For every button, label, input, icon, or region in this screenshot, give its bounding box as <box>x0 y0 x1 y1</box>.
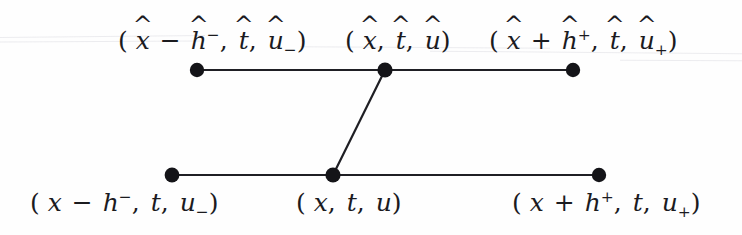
close-paren: ) <box>691 188 701 217</box>
x-symbol: x <box>314 188 328 217</box>
close-paren: ) <box>297 26 307 55</box>
hat-accent: ^ <box>360 14 380 38</box>
comma: , <box>220 26 231 55</box>
upper-center-node-label: ( ^x, ^t, ^u) <box>345 28 451 53</box>
h-symbol: h <box>585 188 601 217</box>
x-symbol: x <box>530 188 544 217</box>
comma: , <box>328 188 339 217</box>
u-symbol: u <box>376 188 392 217</box>
lower-center-node-label: ( x, t, u) <box>296 190 402 215</box>
h-hat-symbol: ^h <box>191 28 207 53</box>
close-paren: ) <box>668 26 678 55</box>
x-hat-symbol: ^x <box>363 28 377 53</box>
upper-left-node-label: ( ^x − ^h−, ^t, ^u−) <box>118 28 307 53</box>
x-hat-symbol: ^x <box>507 28 521 53</box>
open-paren: ( <box>345 26 355 55</box>
stencil-node-upper-left <box>190 63 204 77</box>
hat-accent: ^ <box>637 14 657 38</box>
minus-superscript: − <box>119 188 132 206</box>
plus-operator: + <box>529 26 554 55</box>
hat-accent: ^ <box>266 14 286 38</box>
minus-subscript: − <box>196 203 209 221</box>
stencil-node-lower-center <box>325 167 340 182</box>
t-hat-symbol: ^t <box>610 28 620 53</box>
h-hat-symbol: ^h <box>562 28 578 53</box>
u-hat-symbol: ^u <box>268 28 284 53</box>
center-connector-segment <box>333 70 385 175</box>
t-hat-symbol: ^t <box>239 28 249 53</box>
open-paren: ( <box>296 188 306 217</box>
open-paren: ( <box>118 26 128 55</box>
minus-subscript: − <box>284 41 297 59</box>
open-paren: ( <box>30 188 40 217</box>
stencil-node-lower-right <box>592 168 606 182</box>
x-symbol: x <box>48 188 62 217</box>
hat-accent: ^ <box>189 14 209 38</box>
open-paren: ( <box>489 26 499 55</box>
u-hat-symbol: ^u <box>425 28 441 53</box>
u-hat-symbol: ^u <box>639 28 655 53</box>
hat-accent: ^ <box>423 14 443 38</box>
stencil-node-upper-right <box>566 63 580 77</box>
plus-subscript: + <box>678 203 691 221</box>
plus-operator: + <box>552 188 577 217</box>
close-paren: ) <box>392 188 402 217</box>
plus-subscript: + <box>655 41 668 59</box>
hat-accent: ^ <box>504 14 524 38</box>
open-paren: ( <box>512 188 522 217</box>
close-paren: ) <box>209 188 219 217</box>
t-symbol: t <box>151 188 161 217</box>
u-symbol: u <box>662 188 678 217</box>
u-symbol: u <box>180 188 196 217</box>
t-symbol: t <box>633 188 643 217</box>
comma: , <box>643 188 654 217</box>
hat-accent: ^ <box>133 14 153 38</box>
stencil-node-upper-center <box>377 62 392 77</box>
h-symbol: h <box>103 188 119 217</box>
minus-operator: − <box>70 188 95 217</box>
comma: , <box>132 188 143 217</box>
comma: , <box>591 26 602 55</box>
plus-superscript: + <box>601 188 614 206</box>
t-symbol: t <box>347 188 357 217</box>
lower-right-node-label: ( x + h+, t, u+) <box>512 190 701 215</box>
comma: , <box>161 188 172 217</box>
t-hat-symbol: ^t <box>396 28 406 53</box>
plus-superscript: + <box>578 26 591 44</box>
minus-superscript: − <box>207 26 220 44</box>
lower-left-node-label: ( x − h−, t, u−) <box>30 190 219 215</box>
stencil-diagram-figure: ( ^x − ^h−, ^t, ^u−) ( ^x, ^t, ^u) ( ^x … <box>0 0 742 235</box>
hat-accent: ^ <box>391 14 411 38</box>
hat-accent: ^ <box>234 14 254 38</box>
comma: , <box>614 188 625 217</box>
minus-operator: − <box>158 26 183 55</box>
stencil-node-lower-left <box>165 168 180 183</box>
hat-accent: ^ <box>605 14 625 38</box>
upper-right-node-label: ( ^x + ^h+, ^t, ^u+) <box>489 28 678 53</box>
x-hat-symbol: ^x <box>136 28 150 53</box>
comma: , <box>357 188 368 217</box>
hat-accent: ^ <box>560 14 580 38</box>
